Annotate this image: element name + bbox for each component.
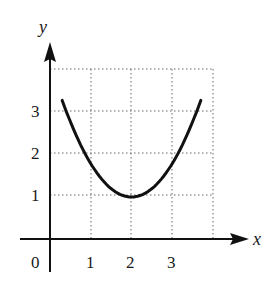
- x-tick-2: 2: [126, 253, 135, 272]
- y-axis-arrow-icon: [44, 42, 56, 62]
- x-tick-3: 3: [167, 253, 176, 272]
- x-tick-1: 1: [86, 253, 95, 272]
- grid: [50, 69, 213, 239]
- curve: [62, 100, 201, 197]
- x-axis-label: x: [252, 229, 261, 249]
- origin-label: 0: [31, 253, 40, 272]
- y-tick-1: 1: [31, 186, 40, 205]
- y-tick-3: 3: [31, 102, 40, 121]
- graph: y x 0 1 2 3 1 2 3: [0, 0, 274, 286]
- y-axis-label: y: [37, 17, 47, 37]
- y-tick-2: 2: [31, 144, 40, 163]
